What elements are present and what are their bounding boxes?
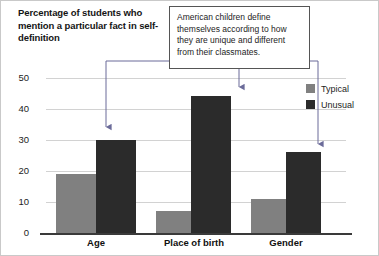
bar-age-unusual — [96, 140, 136, 233]
legend-label-typical: Typical — [321, 84, 349, 94]
y-tick-0: 0 — [5, 227, 29, 238]
chart-figure: Percentage of students who mention a par… — [0, 0, 379, 256]
x-axis-line — [40, 233, 352, 235]
y-tick-30: 30 — [5, 134, 29, 145]
x-label-place-of-birth: Place of birth — [164, 237, 224, 248]
bar-age-typical — [56, 174, 96, 233]
bar-place-of-birth-unusual — [191, 96, 231, 233]
y-tick-40: 40 — [5, 103, 29, 114]
bar-gender-unusual — [286, 152, 321, 233]
y-tick-20: 20 — [5, 165, 29, 176]
bar-gender-typical — [251, 199, 286, 233]
plot-area — [46, 71, 346, 233]
x-label-age: Age — [87, 237, 105, 248]
typical-swatch-icon — [306, 84, 315, 93]
y-tick-10: 10 — [5, 196, 29, 207]
legend-label-unusual: Unusual — [321, 100, 354, 110]
legend-item-typical: Typical — [306, 82, 354, 95]
bar-place-of-birth-typical — [156, 211, 191, 233]
page-title: Percentage of students who mention a par… — [18, 7, 168, 45]
unusual-swatch-icon — [306, 100, 315, 109]
annotation-callout: American children define themselves acco… — [169, 6, 310, 69]
gridline-50 — [46, 78, 346, 79]
y-tick-50: 50 — [5, 72, 29, 83]
legend: Typical Unusual — [306, 82, 354, 114]
legend-item-unusual: Unusual — [306, 98, 354, 111]
x-label-gender: Gender — [269, 237, 302, 248]
